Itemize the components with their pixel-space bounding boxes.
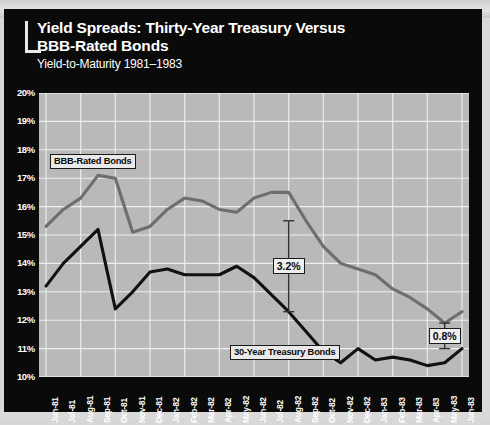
x-axis-tick-label: Jan-82 [171,398,181,423]
title-block: Yield Spreads: Thirty-Year Treasury Vers… [37,19,467,71]
x-axis-tick-label: Jun-81 [50,397,60,423]
x-axis-tick-label: Jun-82 [258,397,268,423]
x-axis-tick-label: Sep-82 [310,397,320,423]
y-axis-tick-label: 16% [17,202,35,212]
x-axis-tick-label: Dec-82 [362,397,372,423]
page-title: Yield Spreads: Thirty-Year Treasury Vers… [37,19,467,54]
y-axis-tick-label: 11% [17,344,35,354]
y-axis-labels: 20%19%18%17%16%15%14%13%12%11%10% [4,88,35,382]
x-axis-tick-label: May-82 [241,396,251,423]
x-axis-tick-label: Mar-82 [206,397,216,423]
x-axis-tick-label: Apr-82 [223,398,233,423]
x-axis-tick-label: Aug-81 [85,396,95,423]
chart-subtitle: Yield-to-Maturity 1981–1983 [37,57,467,71]
y-axis-tick-label: 18% [17,145,35,155]
y-axis-tick-label: 17% [17,173,35,183]
gridlines [39,93,469,377]
y-axis-tick-label: 13% [17,287,35,297]
corner-bracket-icon [25,21,41,53]
x-axis-tick-label: Sep-81 [102,397,112,423]
y-axis-tick-label: 12% [17,315,35,325]
x-axis-tick-label: Dec-81 [154,397,164,423]
x-axis-tick-label: Jun-83 [466,397,476,423]
y-axis-tick-label: 20% [17,88,35,98]
y-axis-tick-label: 15% [17,230,35,240]
spread-value-label-2: 0.8% [429,328,461,344]
x-axis-tick-label: Aug-82 [293,396,303,423]
chart-svg [39,93,469,377]
x-axis-tick-label: Jul-81 [67,400,77,423]
x-axis-tick-label: Nov-82 [345,396,355,423]
x-axis-tick-label: Feb-83 [397,397,407,423]
chart-panel: Yield Spreads: Thirty-Year Treasury Vers… [4,9,482,412]
x-axis-tick-label: Nov-81 [137,396,147,423]
plot-area [39,93,469,377]
spread-markers [283,221,450,349]
y-axis-tick-label: 19% [17,116,35,126]
x-axis-tick-label: Mar-83 [414,397,424,423]
bbb-series-callout: BBB-Rated Bonds [50,154,136,169]
treasury-series-callout: 30-Year Treasury Bonds [230,345,340,360]
y-axis-tick-label: 14% [17,258,35,268]
x-axis-tick-label: Oct-81 [119,398,129,423]
x-axis-tick-label: May-83 [449,396,459,423]
y-axis-tick-label: 10% [17,372,35,382]
x-axis-labels: Jun-81Jul-81Aug-81Sep-81Oct-81Nov-81Dec-… [39,379,469,425]
x-axis-tick-label: Oct-82 [327,398,337,423]
x-axis-tick-label: Feb-82 [189,397,199,423]
spread-value-label-1: 3.2% [273,258,305,274]
x-axis-tick-label: Jan-83 [379,398,389,423]
x-axis-tick-label: Jul-82 [275,400,285,423]
x-axis-tick-label: Apr-83 [431,398,441,423]
